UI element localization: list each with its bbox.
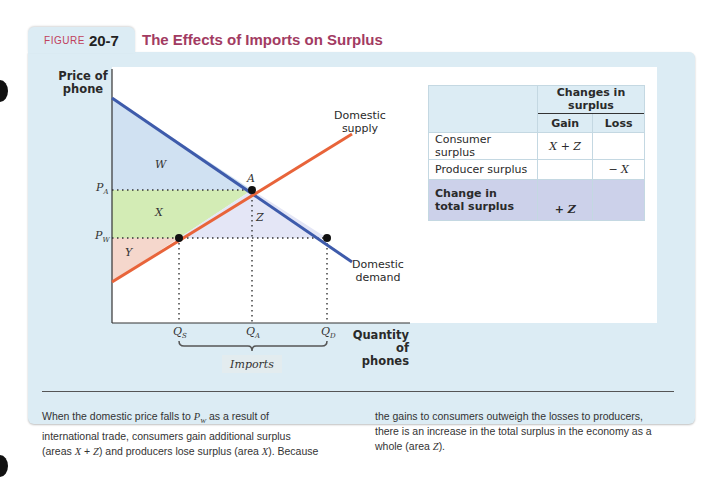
demand-label: Domestic demand bbox=[348, 258, 408, 284]
caption-divider bbox=[42, 391, 674, 392]
price-pa-label: PA bbox=[96, 181, 108, 196]
point-qd bbox=[323, 234, 331, 242]
qty-qs-label: QS bbox=[173, 325, 187, 340]
point-a-label: A bbox=[247, 172, 255, 185]
table-row-producer: Producer surplus − X bbox=[429, 160, 645, 180]
caption-right: the gains to consumers outweigh the loss… bbox=[375, 409, 695, 454]
point-qs bbox=[175, 234, 183, 242]
area-z-label: Z bbox=[256, 211, 264, 224]
y-axis-label: Price of phone bbox=[58, 70, 108, 96]
area-y-label: Y bbox=[125, 246, 132, 259]
surplus-table: Changes in surplus Gain Loss Consumer su… bbox=[428, 85, 645, 221]
caption-left: When the domestic price falls to PW as a… bbox=[42, 409, 362, 459]
table-group-header: Changes in surplus bbox=[538, 86, 645, 115]
area-w-label: W bbox=[155, 158, 166, 171]
price-pw-label: PW bbox=[95, 229, 110, 244]
x-axis-label: Quantity of phones bbox=[345, 329, 409, 368]
qty-qa-label: QA bbox=[246, 325, 260, 340]
col-loss: Loss bbox=[593, 114, 645, 133]
area-x-label: X bbox=[155, 206, 163, 219]
qty-qd-label: QD bbox=[321, 325, 336, 340]
imports-label: Imports bbox=[222, 355, 282, 373]
supply-label: Domestic supply bbox=[330, 109, 390, 135]
table-row-consumer: Consumer surplus X + Z bbox=[429, 133, 645, 160]
col-gain: Gain bbox=[538, 114, 593, 133]
table-row-total: Change in total surplus + Z bbox=[429, 180, 645, 221]
imports-brace bbox=[179, 341, 327, 351]
point-a bbox=[248, 186, 256, 194]
